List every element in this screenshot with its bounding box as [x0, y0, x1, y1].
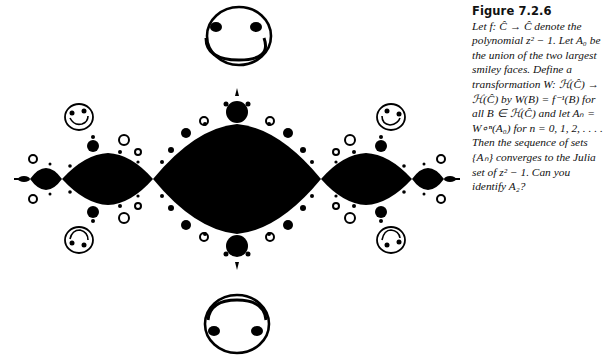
- figure-caption: Figure 7.2.6 Let f: Ĉ → Ĉ denote the pol…: [472, 4, 604, 194]
- julia-set: [14, 88, 460, 270]
- small-smiley-top-left: [65, 104, 93, 130]
- caption-text: Let f: Ĉ → Ĉ denote the polynomial z² − …: [472, 19, 604, 194]
- figure-label: Figure 7.2.6: [472, 4, 604, 19]
- small-smiley-top-right: [377, 104, 405, 130]
- large-smiley-bottom: [205, 295, 269, 353]
- small-smiley-bottom-right: [377, 227, 405, 253]
- small-smiley-bottom-left: [65, 227, 93, 253]
- julia-set-figure: [0, 0, 470, 358]
- large-smiley-top: [206, 7, 271, 65]
